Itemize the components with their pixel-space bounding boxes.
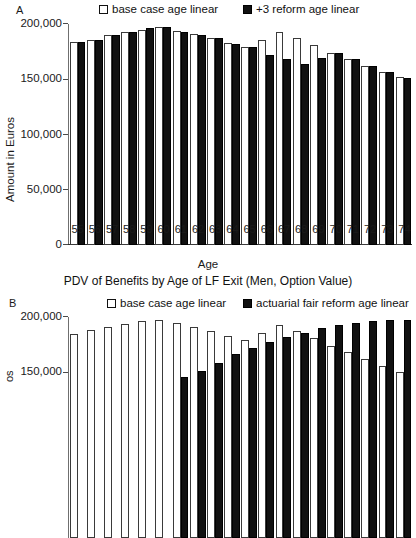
panel-b-letter: B [9, 298, 16, 309]
legend-a-item-base: base case age linear [99, 3, 218, 15]
y-tick-mark-icon [63, 23, 68, 24]
bar-open-age-72 [361, 66, 369, 245]
x-tick-label: 61 [172, 223, 189, 235]
bar-group [189, 24, 206, 245]
x-tick-label: 69 [310, 223, 327, 235]
bar-fill-age-67 [283, 337, 291, 538]
panel-a-letter: A [16, 5, 23, 16]
bar-group [292, 24, 309, 245]
legend-b-label-base: base case age linear [120, 297, 226, 309]
bar-open-age-61 [173, 31, 181, 245]
bar-open-age-58 [121, 32, 129, 245]
bar-group [326, 24, 343, 245]
bar-group [206, 317, 223, 538]
legend-swatch-filled-icon [243, 299, 252, 308]
bar-open-age-64 [224, 43, 232, 245]
bar-group [103, 317, 120, 538]
bar-group [69, 317, 86, 538]
bar-fill-age-62 [198, 35, 206, 245]
bar-open-age-66 [258, 40, 266, 246]
bar-group [395, 317, 412, 538]
bar-open-age-56 [87, 330, 95, 538]
bar-group [395, 24, 412, 245]
x-tick-label: 71 [344, 223, 361, 235]
bar-group [378, 317, 395, 538]
bar-fill-age-71 [352, 323, 360, 538]
bar-group [258, 24, 275, 245]
x-tick-label: 62 [189, 223, 206, 235]
x-tick-label: 67 [275, 223, 292, 235]
bar-fill-age-66 [266, 342, 274, 538]
bar-open-age-59 [138, 30, 146, 246]
legend-a-label-reform: +3 reform age linear [256, 3, 359, 15]
x-tick-label: 59 [138, 223, 155, 235]
bar-fill-age-58 [129, 32, 137, 245]
bar-open-age-59 [138, 321, 146, 538]
legend-b-label-reform: actuarial fair reform age linear [256, 297, 409, 309]
bar-group [292, 317, 309, 538]
y-tick-label: 150,000 [20, 366, 62, 378]
bar-fill-age-63 [215, 38, 223, 245]
panel-b-plot-area: 150,000200,000 [68, 317, 412, 538]
y-tick-label: 50,000 [27, 184, 62, 196]
panel-a-plot-area: 050,000100,000150,000200,000 [68, 24, 412, 245]
panel-a-bar-group-container [69, 24, 412, 245]
bar-group [103, 24, 120, 245]
bar-fill-age-73 [386, 72, 394, 246]
bar-group [206, 24, 223, 245]
x-tick-label: 55 [69, 223, 86, 235]
y-tick: 200,000 [20, 311, 68, 323]
x-tick-label: 64 [224, 223, 241, 235]
y-tick-label: 100,000 [20, 129, 62, 141]
bar-fill-age-59 [146, 28, 154, 245]
bar-group [223, 317, 240, 538]
x-tick-label: 60 [155, 223, 172, 235]
bar-group [258, 317, 275, 538]
bar-group [155, 317, 172, 538]
bar-group [223, 24, 240, 245]
bar-fill-age-72 [369, 321, 377, 538]
bar-fill-age-56 [95, 40, 103, 246]
bar-open-age-64 [224, 336, 232, 538]
legend-a-item-reform: +3 reform age linear [243, 3, 359, 15]
bar-fill-age-65 [249, 348, 257, 538]
bar-group [361, 24, 378, 245]
bar-fill-age-63 [215, 363, 223, 538]
bar-open-age-70 [327, 53, 335, 245]
bar-open-age-69 [310, 45, 318, 245]
bar-fill-age-68 [301, 333, 309, 538]
bar-group [344, 24, 361, 245]
y-tick-label: 150,000 [20, 73, 62, 85]
y-tick-label: 200,000 [20, 311, 62, 323]
bar-group [172, 317, 189, 538]
bar-group [155, 24, 172, 245]
bar-fill-age-69 [318, 58, 326, 245]
bar-fill-age-70 [335, 325, 343, 538]
bar-fill-age-73 [386, 320, 394, 538]
bar-group [241, 24, 258, 245]
legend-swatch-open-icon [107, 299, 116, 308]
bar-open-age-57 [104, 327, 112, 538]
bar-open-age-68 [293, 331, 301, 538]
x-tick-label: 56 [86, 223, 103, 235]
bar-open-age-71 [344, 59, 352, 245]
bar-group [69, 24, 86, 245]
bar-fill-age-72 [369, 66, 377, 245]
bar-open-age-70 [327, 346, 335, 538]
bar-open-age-60 [155, 320, 163, 538]
x-tick-label: 58 [121, 223, 138, 235]
legend-swatch-open-icon [99, 5, 108, 14]
bar-fill-age-66 [266, 55, 274, 245]
x-tick-label: 70 [327, 223, 344, 235]
panel-a-y-axis-label: Amount in Euros [4, 62, 16, 202]
panel-a: A base case age linear +3 reform age lin… [0, 0, 416, 268]
panel-a-x-tick-labels: 5556575859606162636465666768697071727374 [69, 223, 413, 235]
bar-group [138, 24, 155, 245]
bar-open-age-58 [121, 324, 129, 538]
bar-group [86, 24, 103, 245]
bar-group [172, 24, 189, 245]
y-tick-mark-icon [63, 79, 68, 80]
bar-fill-age-64 [232, 354, 240, 538]
bar-fill-age-64 [232, 44, 240, 245]
